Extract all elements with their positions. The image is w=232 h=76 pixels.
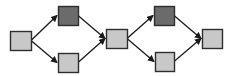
node-box-n2-dark (59, 7, 79, 26)
node-box-n7-light (203, 30, 223, 49)
node-box-n1-light (11, 32, 32, 51)
diagram-canvas (0, 0, 232, 76)
edge-arrow-n5-n7 (174, 16, 201, 39)
edge-arrow-n4-n6 (127, 39, 154, 62)
edge-arrow-n3-n4 (78, 39, 105, 63)
edge-arrow-n1-n2 (31, 16, 57, 41)
node-box-n3-light (59, 54, 79, 73)
node-box-n6-light (156, 53, 175, 72)
edge-arrow-n4-n5 (127, 16, 153, 39)
node-box-n4-light (107, 30, 128, 49)
edge-arrow-n1-n3 (31, 41, 57, 63)
nodes-layer (11, 7, 223, 73)
edge-arrow-n6-n7 (174, 39, 201, 62)
node-box-n5-dark (155, 7, 175, 26)
edge-arrow-n2-n4 (78, 16, 105, 39)
flow-diagram (0, 0, 232, 76)
